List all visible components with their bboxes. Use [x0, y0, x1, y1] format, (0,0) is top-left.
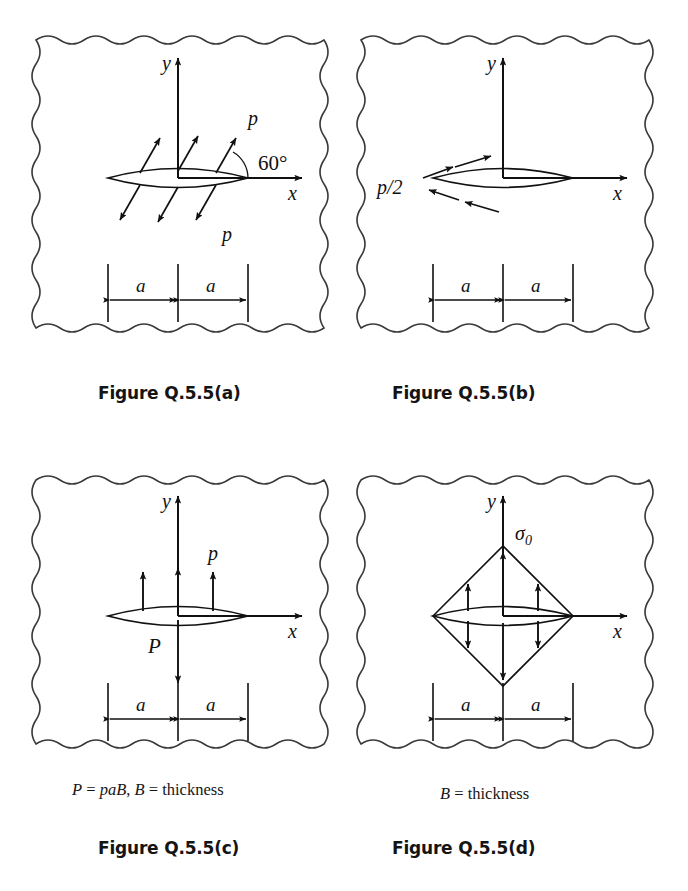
- caption-panel-c: Figure Q.5.5(c): [98, 838, 239, 858]
- dimension-label-right: a: [531, 694, 541, 715]
- dimension-block: [108, 264, 248, 322]
- note-panel-d: B = thickness: [440, 784, 529, 804]
- axis-x-label: x: [287, 620, 297, 642]
- axis-x-label: x: [612, 620, 622, 642]
- note-d-thickness: B = thickness: [440, 784, 529, 803]
- panel-b-drawing: y x p/2 a a: [355, 28, 655, 368]
- note-c-comma: ,: [126, 780, 130, 799]
- load-label-bottom: p: [220, 223, 232, 246]
- caption-panel-b: Figure Q.5.5(b): [392, 383, 535, 403]
- caption-panel-d: Figure Q.5.5(d): [392, 838, 535, 858]
- stress-arrows-lower: [468, 621, 538, 680]
- stress-arrows-upper: [468, 552, 538, 611]
- axis-x-label: x: [612, 182, 622, 204]
- panel-b: y x p/2 a a: [355, 28, 655, 368]
- shear-arrows-upper: [423, 156, 491, 178]
- dimension-label-left: a: [461, 275, 471, 296]
- note-c-symbol-P: P: [72, 780, 82, 799]
- load-label-top: p: [206, 542, 218, 565]
- figure-sheet: y x p p 60° a a: [0, 0, 688, 891]
- axis-x-label: x: [287, 182, 297, 204]
- panel-a-drawing: y x p p 60° a a: [30, 28, 330, 368]
- wavy-border: [32, 36, 328, 332]
- axis-y-label: y: [485, 52, 496, 75]
- pressure-arrows-upper: [140, 136, 236, 173]
- wavy-border: [32, 476, 328, 748]
- stress-label: σ0: [515, 522, 532, 548]
- panel-d: y x σ0 a a: [355, 468, 655, 798]
- dimension-label-left: a: [136, 275, 146, 296]
- panel-a: y x p p 60° a a: [30, 28, 330, 368]
- note-c-equals: =: [86, 780, 95, 799]
- axis-y-label: y: [485, 490, 496, 513]
- dimension-label-right: a: [531, 275, 541, 296]
- axis-y-label: y: [160, 490, 171, 513]
- point-load-label: P: [147, 634, 161, 658]
- pressure-arrows-lower: [120, 185, 216, 222]
- pressure-arrows-upper: [143, 568, 213, 611]
- dimension-block: [108, 683, 248, 741]
- dimension-label-right: a: [206, 275, 216, 296]
- panel-c: y x p P a a: [30, 468, 330, 798]
- shear-arrows-lower: [429, 190, 499, 212]
- dimension-label-left: a: [461, 694, 471, 715]
- stress-subscript: 0: [525, 533, 532, 548]
- wavy-border: [357, 476, 653, 748]
- angle-label: 60°: [258, 151, 287, 175]
- dimension-block: [433, 683, 573, 741]
- dimension-label-right: a: [206, 694, 216, 715]
- note-c-thickness: B = thickness: [135, 780, 224, 799]
- caption-panel-a: Figure Q.5.5(a): [98, 383, 241, 403]
- note-c-expression: paB: [100, 780, 127, 799]
- note-panel-c: P = paB, B = thickness: [72, 780, 224, 800]
- dimension-label-left: a: [136, 694, 146, 715]
- load-label: p/2: [375, 176, 403, 199]
- panel-c-drawing: y x p P a a: [30, 468, 330, 798]
- axis-y-label: y: [160, 52, 171, 75]
- dimension-block: [433, 264, 573, 322]
- panel-d-drawing: y x σ0 a a: [355, 468, 655, 798]
- load-label-top: p: [246, 107, 258, 130]
